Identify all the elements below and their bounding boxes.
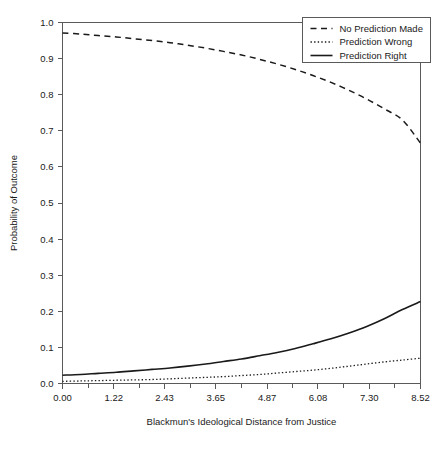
y-tick-label: 0.1 xyxy=(40,342,53,353)
y-tick-label: 0.2 xyxy=(40,306,53,317)
legend-label-0: No Prediction Made xyxy=(340,23,423,34)
legend-label-2: Prediction Right xyxy=(340,50,407,61)
y-tick-label: 0.8 xyxy=(40,89,53,100)
probability-line-chart: 0.00.10.20.30.40.50.60.70.80.91.0 0.001.… xyxy=(0,0,437,449)
x-axis-title: Blackmun's Ideological Distance from Jus… xyxy=(147,416,337,427)
y-tick-label: 1.0 xyxy=(40,17,53,28)
x-tick-label: 3.65 xyxy=(207,392,226,403)
x-tick-label: 8.52 xyxy=(411,392,430,403)
y-tick-label: 0.6 xyxy=(40,161,53,172)
y-tick-label: 0.4 xyxy=(40,234,53,245)
chart-background xyxy=(0,0,437,449)
y-tick-label: 0.7 xyxy=(40,125,53,136)
y-tick-label: 0.3 xyxy=(40,270,53,281)
legend: No Prediction MadePrediction WrongPredic… xyxy=(303,18,431,63)
x-tick-label: 7.30 xyxy=(360,392,379,403)
x-tick-label: 0.00 xyxy=(53,392,72,403)
x-tick-label: 1.22 xyxy=(105,392,124,403)
legend-label-1: Prediction Wrong xyxy=(340,36,413,47)
x-tick-label: 2.43 xyxy=(155,392,174,403)
y-tick-label: 0.5 xyxy=(40,197,53,208)
chart-figure: 0.00.10.20.30.40.50.60.70.80.91.0 0.001.… xyxy=(0,0,437,449)
x-tick-label: 4.87 xyxy=(258,392,277,403)
y-tick-label: 0.9 xyxy=(40,53,53,64)
y-axis-title: Probability of Outcome xyxy=(8,155,19,251)
x-tick-label: 6.08 xyxy=(309,392,328,403)
y-tick-label: 0.0 xyxy=(40,378,53,389)
